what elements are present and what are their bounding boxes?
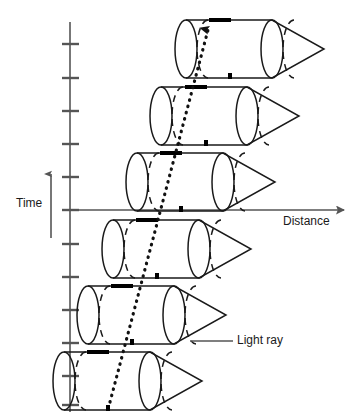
light-ray-annotation-label: Light ray (237, 334, 283, 346)
ship-body-outline (88, 286, 226, 344)
ship-detector-marker (155, 273, 159, 279)
ship-mid-ring (139, 352, 161, 410)
spaceship-snapshot-2 (77, 284, 226, 345)
ship-tail-ring (150, 87, 172, 145)
ship-tail-ring (175, 20, 197, 78)
ship-tail-ring (126, 153, 148, 211)
ship-detector-marker (106, 405, 110, 411)
distance-axis-label: Distance (283, 215, 330, 227)
spaceship-snapshot-5 (150, 85, 299, 146)
ship-mirror-marker (209, 18, 231, 22)
ship-mirror-marker (87, 350, 109, 354)
ship-tail-ring (53, 352, 75, 410)
ship-body-outline (113, 220, 251, 278)
ship-tail-ring (102, 220, 124, 278)
ship-body-outline (186, 20, 324, 78)
ship-tail-ring (77, 286, 99, 344)
ship-detector-marker (228, 73, 232, 79)
ship-mid-ring (163, 286, 185, 344)
ship-body-outline (161, 87, 299, 145)
ship-mid-ring (188, 220, 210, 278)
spacetime-diagram-figure: Time Distance Light ray (0, 0, 362, 419)
ship-tail-ring-inner (124, 220, 135, 278)
ship-tail-ring-inner (172, 87, 183, 145)
ship-tail-ring-inner (99, 286, 110, 344)
ship-mirror-marker (185, 85, 207, 89)
ship-tail-ring-inner (75, 352, 86, 410)
ship-detector-marker (179, 206, 183, 212)
ship-mirror-marker (160, 151, 182, 155)
ship-mid-ring (261, 20, 283, 78)
spaceship-snapshot-1 (53, 350, 202, 411)
time-axis-label: Time (16, 197, 42, 209)
spaceship-snapshot-4 (126, 151, 275, 212)
ship-detector-marker (130, 339, 134, 345)
ship-body-outline (64, 352, 202, 410)
ship-mid-ring (236, 87, 258, 145)
light-ray-line (110, 30, 208, 402)
diagram-canvas (0, 0, 362, 419)
spaceship-snapshot-3 (102, 218, 251, 279)
ship-mirror-marker (111, 284, 133, 288)
ship-body-outline (137, 153, 275, 211)
ship-tail-ring-inner (148, 153, 159, 211)
ship-mirror-marker (136, 218, 158, 222)
ship-detector-marker (204, 140, 208, 146)
ship-mid-ring (212, 153, 234, 211)
